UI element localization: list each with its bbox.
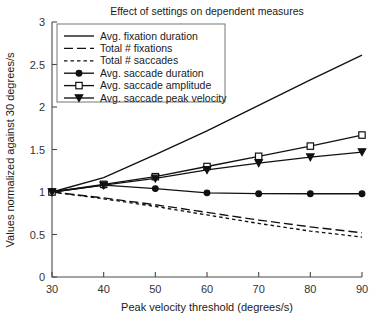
- x-tick-marks: [52, 272, 362, 277]
- x-tick-label: 80: [304, 283, 316, 295]
- x-tick-label: 70: [253, 283, 265, 295]
- marker-square: [307, 143, 313, 149]
- y-tick-label: 0.5: [30, 229, 45, 241]
- marker-circle: [256, 191, 262, 197]
- legend-label: Avg. saccade amplitude: [100, 79, 211, 91]
- chart-legend: Avg. fixation durationTotal # fixationsT…: [57, 24, 227, 104]
- legend-label: Avg. saccade duration: [100, 67, 204, 79]
- marker-square: [359, 132, 365, 138]
- y-tick-labels: 00.511.522.53: [30, 16, 45, 283]
- x-tick-labels: 30405060708090: [46, 283, 368, 295]
- marker-circle: [204, 190, 210, 196]
- y-axis-label: Values normalized against 30 degrees/s: [4, 52, 16, 247]
- series-3: [49, 182, 365, 196]
- legend-label: Total # fixations: [100, 42, 172, 54]
- series-2: [52, 192, 362, 237]
- y-tick-label: 0: [39, 271, 45, 283]
- legend-label: Avg. fixation duration: [100, 30, 198, 42]
- series-line: [52, 192, 362, 237]
- y-tick-label: 2.5: [30, 59, 45, 71]
- line-chart: Effect of settings on dependent measures…: [0, 0, 375, 322]
- marker-circle: [152, 186, 158, 192]
- y-tick-marks: [52, 22, 57, 277]
- marker-circle: [359, 191, 365, 197]
- x-axis-label: Peak velocity threshold (degrees/s): [121, 301, 293, 313]
- marker-square: [76, 82, 82, 88]
- x-tick-label: 60: [201, 283, 213, 295]
- x-tick-label: 40: [98, 283, 110, 295]
- marker-circle: [76, 70, 82, 76]
- y-tick-label: 1.5: [30, 144, 45, 156]
- x-tick-label: 90: [356, 283, 368, 295]
- y-tick-label: 1: [39, 186, 45, 198]
- marker-circle: [307, 191, 313, 197]
- marker-square: [255, 153, 261, 159]
- chart-figure: Effect of settings on dependent measures…: [0, 0, 375, 322]
- legend-label: Avg. saccade peak velocity: [100, 92, 227, 104]
- chart-title: Effect of settings on dependent measures: [110, 5, 304, 17]
- legend-label: Total # saccades: [100, 54, 178, 66]
- x-tick-label: 30: [46, 283, 58, 295]
- x-tick-label: 50: [149, 283, 161, 295]
- series-5: [48, 149, 366, 196]
- y-tick-label: 2: [39, 101, 45, 113]
- y-tick-label: 3: [39, 16, 45, 28]
